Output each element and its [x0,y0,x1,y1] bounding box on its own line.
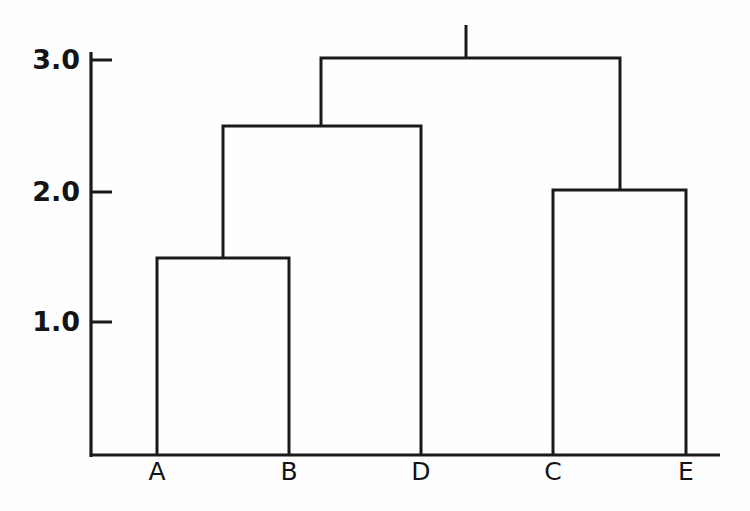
branch-abd [223,126,421,455]
leaf-label-d: D [411,457,430,486]
leaf-label-a: A [148,457,165,486]
cluster-link-ce [553,190,686,455]
tick-label-1: 1.0 [32,306,80,337]
leaf-labels: A B D C E [148,457,693,486]
y-axis-ticks [91,60,112,322]
branch-ce [553,190,686,455]
cluster-link-abd [223,126,421,455]
tick-label-3: 3.0 [32,44,80,75]
branch-root [321,58,620,190]
leaf-label-c: C [544,457,561,486]
y-axis-tick-labels: 3.0 2.0 1.0 [32,44,80,337]
cluster-link-root [321,58,620,190]
cluster-link-ab [157,258,289,455]
dendrogram-figure: 3.0 2.0 1.0 A B D C E [0,0,750,511]
leaf-label-e: E [678,457,694,486]
branch-ab [157,258,289,455]
leaf-label-b: B [280,457,297,486]
dendrogram-plot: 3.0 2.0 1.0 A B D C E [0,0,750,511]
tick-label-2: 2.0 [32,176,80,207]
